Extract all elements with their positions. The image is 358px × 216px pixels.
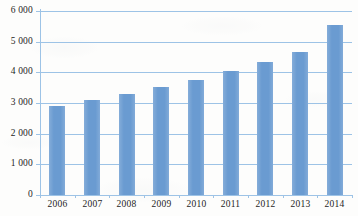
bar — [84, 100, 100, 195]
x-tick-label: 2010 — [179, 199, 214, 209]
bar — [223, 71, 239, 196]
x-tick-mark — [283, 195, 284, 198]
x-tick-label: 2012 — [248, 199, 283, 209]
y-tick-label: 2 000 — [11, 128, 33, 138]
bar-chart: 01 0002 0003 0004 0005 0006 000 20062007… — [0, 0, 358, 216]
x-tick-label: 2008 — [109, 199, 144, 209]
x-tick-mark — [109, 195, 110, 198]
x-tick-mark — [317, 195, 318, 198]
x-tick-mark — [75, 195, 76, 198]
bar — [153, 87, 169, 195]
bar — [119, 94, 135, 195]
bar — [188, 80, 204, 195]
x-tick-mark — [248, 195, 249, 198]
x-tick-mark — [179, 195, 180, 198]
x-tick-mark — [144, 195, 145, 198]
y-tick-label: 0 — [28, 189, 33, 199]
x-tick-mark — [213, 195, 214, 198]
y-tick-label: 6 000 — [11, 5, 33, 15]
x-tick-mark — [40, 195, 41, 198]
x-tick-label: 2006 — [40, 199, 75, 209]
x-tick-label: 2009 — [144, 199, 179, 209]
plot-area — [40, 11, 352, 195]
y-tick-label: 1 000 — [11, 158, 33, 168]
bar — [292, 52, 308, 195]
y-tick-label: 3 000 — [11, 97, 33, 107]
x-tick-label: 2013 — [283, 199, 318, 209]
y-tick-label: 5 000 — [11, 36, 33, 46]
axis-baseline — [40, 195, 352, 196]
x-tick-label: 2011 — [213, 199, 248, 209]
x-tick-mark — [352, 195, 353, 198]
bar — [49, 106, 65, 195]
x-tick-label: 2014 — [317, 199, 352, 209]
bar — [327, 25, 343, 195]
bar — [257, 62, 273, 195]
x-tick-label: 2007 — [75, 199, 110, 209]
y-tick-label: 4 000 — [11, 66, 33, 76]
